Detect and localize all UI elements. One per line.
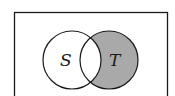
set-t-label: T [109, 50, 122, 70]
set-s-label: S [60, 50, 72, 70]
venn-diagram: S T [0, 0, 175, 96]
